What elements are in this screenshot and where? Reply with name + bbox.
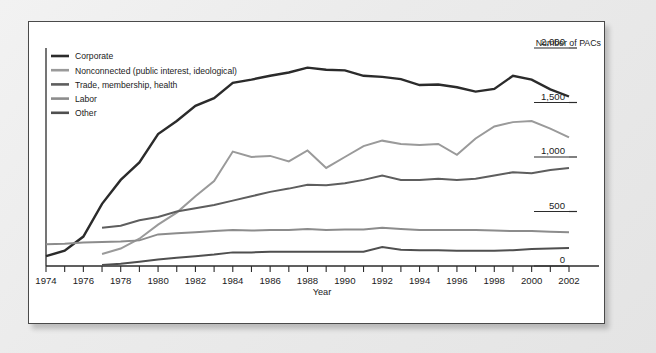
y-tick-label-1000: 1,000	[541, 145, 565, 156]
x-tick-label-1980: 1980	[147, 275, 168, 286]
x-tick-label-1998: 1998	[484, 275, 505, 286]
x-tick-label-1994: 1994	[409, 275, 431, 286]
x-tick-label-1990: 1990	[334, 275, 355, 286]
legend-label-0: Corporate	[75, 51, 113, 61]
series-line-other	[102, 247, 569, 265]
x-tick-label-1996: 1996	[446, 275, 467, 286]
x-tick-label-1976: 1976	[73, 275, 94, 286]
x-tick-label-2002: 2002	[558, 275, 579, 286]
x-tick-label-1984: 1984	[222, 275, 244, 286]
x-tick-label-1988: 1988	[297, 275, 318, 286]
data-series-group	[46, 68, 569, 265]
y-tick-label-500: 500	[549, 200, 565, 211]
page-background: CorporateNonconnected (public interest, …	[0, 0, 656, 353]
chart-panel: CorporateNonconnected (public interest, …	[28, 21, 605, 324]
y-tick-label-0: 0	[560, 254, 565, 265]
x-tick-label-1986: 1986	[259, 275, 280, 286]
y-tick-label-1500: 1,500	[541, 91, 565, 102]
legend-label-4: Other	[75, 108, 97, 118]
x-axis-title: Year	[313, 287, 332, 297]
x-tick-label-1992: 1992	[372, 275, 393, 286]
x-tick-label-1978: 1978	[110, 275, 131, 286]
legend-label-2: Trade, membership, health	[75, 80, 178, 90]
x-axis: 1974197619781980198219841986198819901992…	[35, 266, 579, 286]
legend-label-3: Labor	[75, 94, 97, 104]
series-line-trade-membership	[102, 168, 569, 228]
x-tick-label-2000: 2000	[521, 275, 542, 286]
x-tick-label-1982: 1982	[185, 275, 206, 286]
series-line-labor	[46, 228, 569, 244]
chart-legend: CorporateNonconnected (public interest, …	[51, 51, 237, 118]
series-line-corporate	[46, 68, 569, 257]
pac-line-chart: CorporateNonconnected (public interest, …	[29, 22, 606, 325]
y-tick-label-2000: 2,000	[541, 36, 565, 47]
x-tick-label-1974: 1974	[35, 275, 57, 286]
legend-label-1: Nonconnected (public interest, ideologic…	[75, 66, 237, 76]
